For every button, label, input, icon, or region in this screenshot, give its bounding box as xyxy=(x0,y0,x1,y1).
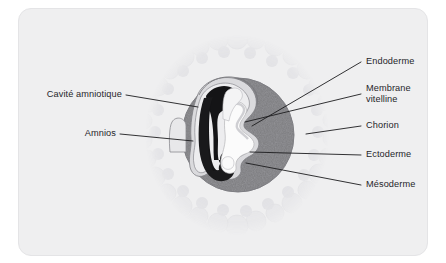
label-cavite-amniotique: Cavité amniotique xyxy=(18,89,122,100)
label-amnios-text: Amnios xyxy=(85,128,116,138)
label-chorion-text: Chorion xyxy=(366,120,399,130)
pocket-left xyxy=(169,118,186,152)
figure-root: Cavité amniotique Amnios Endoderme Membr… xyxy=(0,0,446,263)
label-endoderme-text: Endoderme xyxy=(366,56,414,66)
label-cavite-amniotique-text: Cavité amniotique xyxy=(47,89,122,99)
label-endoderme: Endoderme xyxy=(366,56,414,67)
label-amnios: Amnios xyxy=(18,128,116,139)
label-ectoderme-text: Ectoderme xyxy=(366,149,411,159)
label-chorion: Chorion xyxy=(366,120,399,131)
label-ectoderme: Ectoderme xyxy=(366,149,411,160)
label-mesoderme: Mésoderme xyxy=(366,179,415,190)
label-mesoderme-text: Mésoderme xyxy=(366,179,415,189)
label-membrane-vitelline-line1: Membrane xyxy=(366,83,411,94)
label-membrane-vitelline-line2: vitelline xyxy=(366,94,411,105)
label-membrane-vitelline: Membrane vitelline xyxy=(366,83,411,105)
